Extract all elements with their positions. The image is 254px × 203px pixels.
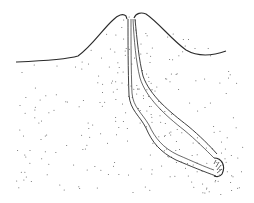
animal-head-segments [214, 160, 222, 173]
burrow-wall-inner-left [131, 19, 214, 170]
burrow-illustration [0, 0, 254, 203]
burrow-wall-outer [128, 19, 216, 176]
burrow-drawing [0, 0, 254, 203]
ground-surface-line [16, 13, 226, 62]
burrow-wall-outer-right [135, 19, 217, 154]
